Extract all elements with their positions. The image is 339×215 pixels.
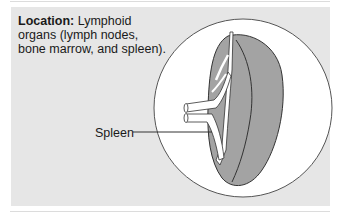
spleen-illustration bbox=[0, 0, 339, 215]
spleen-label: Spleen bbox=[95, 126, 134, 140]
